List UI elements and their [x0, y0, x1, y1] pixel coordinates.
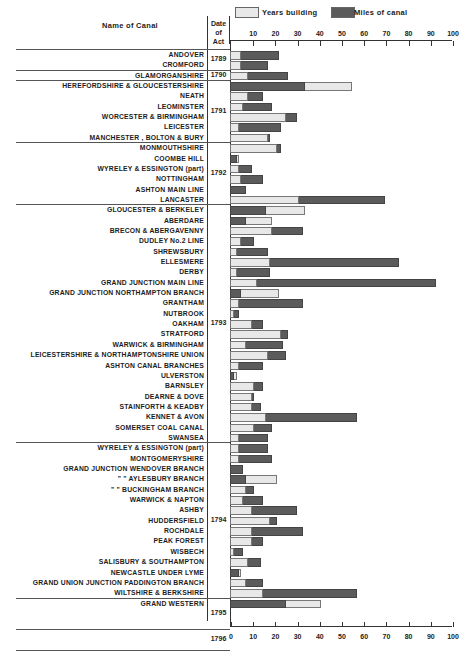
table-row: GRAND JUNCTION MAIN LINE: [0, 278, 462, 288]
canal-name: HUDDERSFIELD: [148, 516, 204, 526]
date-of-act-label: 1789: [207, 55, 230, 62]
canal-name: GRAND JUNCTION WENDOVER BRANCH: [63, 464, 204, 474]
canal-name: WARWICK & BIRMINGHAM: [113, 340, 204, 350]
table-row: WYRELEY & ESSINGTON (part): [0, 443, 462, 453]
axis-tick-label: 10: [243, 30, 263, 37]
miles-of-canal-bar: [230, 475, 246, 484]
table-row: NOTTINGHAM: [0, 174, 462, 184]
canal-name: NUTBROOK: [163, 309, 204, 319]
table-row: ASHTON MAIN LINE: [0, 185, 462, 195]
axis-tick-label: 30: [288, 633, 308, 640]
years-building-bar: [230, 558, 248, 567]
group-separator: [16, 204, 230, 205]
canal-name: KENNET & AVON: [146, 412, 204, 422]
table-row: PEAK FOREST: [0, 536, 462, 546]
table-row: HUDDERSFIELD: [0, 516, 462, 526]
table-row: GRAND JUNCTION WENDOVER BRANCH: [0, 464, 462, 474]
miles-of-canal-bar: [230, 186, 246, 195]
table-row: BARNSLEY: [0, 381, 462, 391]
axis-tick-label: 70: [376, 30, 396, 37]
years-building-bar: [230, 351, 268, 360]
years-building-bar: [230, 61, 241, 70]
table-row: LEICESTER: [0, 122, 462, 132]
legend-miles-swatch: [331, 7, 355, 18]
axis-tick-label: 50: [332, 633, 352, 640]
years-building-bar: [230, 268, 237, 277]
axis-tick: [409, 41, 410, 46]
date-of-act-label: 1796: [207, 635, 230, 642]
canal-name: WARWICK & NAPTON: [130, 495, 204, 505]
years-building-bar: [230, 424, 254, 433]
years-building-bar: [230, 517, 270, 526]
table-row: WARWICK & BIRMINGHAM: [0, 340, 462, 350]
canal-name: LEICESTERSHIRE & NORTHAMPTONSHIRE UNION: [31, 350, 204, 360]
table-row: ANDOVER: [0, 50, 462, 60]
years-building-bar: [230, 196, 299, 205]
canal-name: HEREFORDSHIRE & GLOUCESTERSHIRE: [62, 81, 204, 91]
table-row: WORCESTER & BIRMINGHAM: [0, 112, 462, 122]
axis-tick: [320, 41, 321, 46]
years-building-bar: [230, 393, 252, 402]
years-building-bar: [230, 175, 241, 184]
axis-tick: [431, 622, 432, 627]
canal-name: LEOMINSTER: [157, 102, 204, 112]
table-row: " " BUCKINGHAM BRANCH: [0, 485, 462, 495]
years-building-bar: [230, 382, 254, 391]
axis-tick: [453, 41, 454, 46]
canal-name: ASHTON CANAL BRANCHES: [105, 361, 204, 371]
table-row: DUDLEY No.2 LINE: [0, 236, 462, 246]
miles-of-canal-bar: [230, 299, 303, 308]
table-row: ABERDARE: [0, 216, 462, 226]
canal-name: " " BUCKINGHAM BRANCH: [111, 485, 204, 495]
table-row: ROCHDALE: [0, 526, 462, 536]
axis-tick: [275, 41, 276, 46]
years-building-bar: [230, 341, 246, 350]
years-building-bar: [230, 134, 268, 143]
canal-name: LEICESTER: [164, 122, 204, 132]
group-separator: [16, 442, 230, 443]
years-building-bar: [230, 72, 248, 81]
years-building-bar: [230, 403, 252, 412]
years-building-bar: [230, 92, 248, 101]
years-building-bar: [230, 434, 239, 443]
table-row: SOMERSET COAL CANAL: [0, 423, 462, 433]
axis-tick: [231, 622, 232, 627]
axis-tick: [386, 41, 387, 46]
table-row: WISBECH: [0, 547, 462, 557]
canal-name: GRAND JUNCTION MAIN LINE: [101, 278, 204, 288]
date-of-act-label: 1790: [207, 71, 230, 78]
axis-tick-label: 90: [421, 633, 441, 640]
years-building-bar: [230, 279, 257, 288]
years-building-bar: [230, 144, 277, 153]
canal-name: MONMOUTHSHIRE: [140, 143, 204, 153]
name-column-header: Name of Canal: [60, 21, 200, 30]
date-of-act-label: 1792: [207, 169, 230, 176]
date-of-act-label: 1794: [207, 516, 230, 523]
canal-name: WYRELEY & ESSINGTON (part): [97, 164, 204, 174]
table-row: ULVERSTON: [0, 371, 462, 381]
table-row: DEARNE & DOVE: [0, 392, 462, 402]
axis-tick-label: 100: [443, 30, 462, 37]
table-row: BRECON & ABERGAVENNY: [0, 226, 462, 236]
canal-name: ANDOVER: [169, 50, 204, 60]
axis-tick: [253, 41, 254, 46]
table-row: OAKHAM: [0, 319, 462, 329]
group-separator: [16, 142, 230, 143]
table-row: GRANTHAM: [0, 298, 462, 308]
axis-tick: [253, 622, 254, 627]
years-building-bar: [230, 496, 243, 505]
table-row: LEICESTERSHIRE & NORTHAMPTONSHIRE UNION: [0, 350, 462, 360]
axis-tick: [320, 622, 321, 627]
years-building-bar: [230, 51, 241, 60]
years-building-bar: [230, 320, 252, 329]
table-row: STAINFORTH & KEADBY: [0, 402, 462, 412]
canal-name: DEARNE & DOVE: [145, 392, 204, 402]
group-separator: [16, 629, 230, 630]
table-row: KENNET & AVON: [0, 412, 462, 422]
date-of-act-label: 1793: [207, 319, 230, 326]
canal-name: " " AYLESBURY BRANCH: [118, 474, 204, 484]
years-building-bar: [230, 310, 234, 319]
bottom-axis-line: [230, 626, 452, 627]
canal-name: DERBY: [179, 267, 204, 277]
canal-name: GLOUCESTER & BERKELEY: [107, 205, 204, 215]
